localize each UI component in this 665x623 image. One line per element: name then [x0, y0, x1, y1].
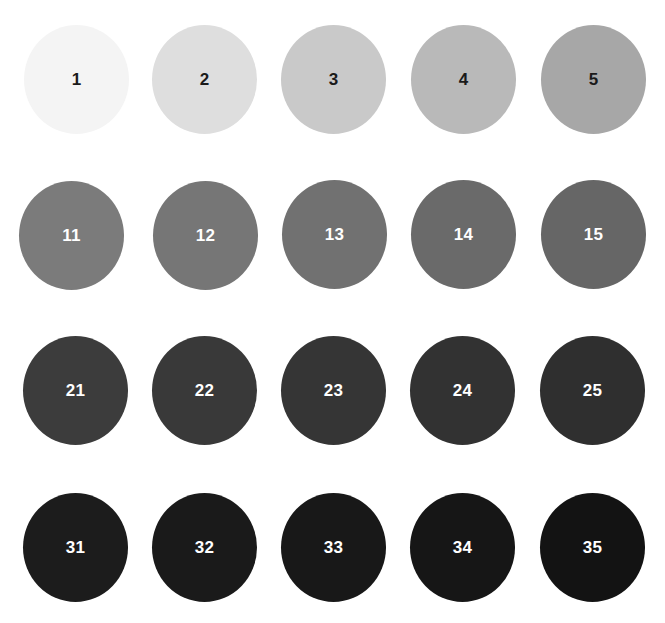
swatch-33: 33	[281, 493, 386, 602]
swatch-label: 1	[72, 70, 82, 90]
swatch-label: 11	[62, 226, 80, 246]
swatch-34: 34	[410, 493, 515, 602]
swatch-label: 2	[200, 70, 210, 90]
swatch-15: 15	[541, 180, 646, 289]
swatch-35: 35	[540, 493, 645, 602]
swatch-22: 22	[152, 336, 257, 445]
swatch-12: 12	[153, 181, 258, 290]
swatch-label: 24	[453, 381, 472, 401]
swatch-25: 25	[540, 336, 645, 445]
swatch-14: 14	[411, 180, 516, 289]
swatch-label: 25	[583, 381, 602, 401]
swatch-label: 23	[324, 381, 343, 401]
swatch-label: 33	[324, 538, 343, 558]
swatch-32: 32	[152, 493, 257, 602]
grayscale-swatch-grid: 1 2 3 4 5 11 12 13 14 15 21 22 23 24 25	[0, 0, 665, 623]
swatch-label: 32	[195, 538, 214, 558]
swatch-5: 5	[541, 25, 646, 134]
swatch-3: 3	[281, 25, 386, 134]
swatch-label: 21	[66, 381, 85, 401]
swatch-1: 1	[24, 25, 129, 134]
swatch-label: 31	[66, 538, 85, 558]
swatch-label: 13	[325, 225, 344, 245]
swatch-label: 14	[454, 225, 473, 245]
swatch-label: 22	[195, 381, 214, 401]
swatch-label: 35	[583, 538, 602, 558]
swatch-label: 3	[329, 70, 339, 90]
swatch-label: 15	[584, 225, 603, 245]
swatch-label: 12	[196, 226, 215, 246]
swatch-24: 24	[410, 336, 515, 445]
swatch-label: 5	[589, 70, 599, 90]
swatch-2: 2	[152, 25, 257, 134]
swatch-11: 11	[19, 181, 124, 290]
swatch-21: 21	[23, 336, 128, 445]
swatch-label: 34	[453, 538, 472, 558]
swatch-23: 23	[281, 336, 386, 445]
swatch-label: 4	[459, 70, 469, 90]
swatch-31: 31	[23, 493, 128, 602]
swatch-4: 4	[411, 25, 516, 134]
swatch-13: 13	[282, 180, 387, 289]
